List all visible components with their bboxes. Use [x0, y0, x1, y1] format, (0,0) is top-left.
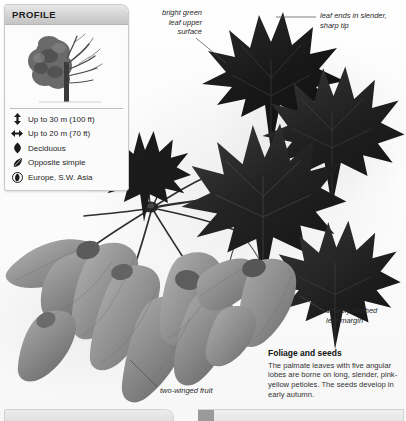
next-section-panel-top-edge [198, 409, 404, 421]
caption-title: Foliage and seeds [268, 348, 400, 358]
leader-line-upper-surface [196, 38, 230, 66]
profile-title: PROFILE [12, 9, 56, 20]
next-section-tab-marker [198, 410, 214, 421]
profile-attribute-list: Up to 30 m (100 ft) Up to 20 m (70 ft) D… [5, 111, 128, 190]
profile-leaf-type-text: Opposite simple [28, 158, 85, 167]
profile-panel: PROFILE [4, 4, 129, 191]
profile-row-height: Up to 30 m (100 ft) [10, 112, 124, 126]
profile-divider [10, 108, 123, 109]
simple-leaf-icon [10, 156, 24, 169]
next-profile-panel-top-edge [4, 409, 174, 421]
profile-region-text: Europe, S.W. Asia [28, 173, 92, 182]
annotation-leaf-margin: sharply toothed leaf margin [326, 306, 404, 325]
profile-spread-text: Up to 20 m (70 ft) [28, 129, 90, 138]
falling-leaf-icon [10, 142, 24, 155]
annotation-leaf-tip-text: leaf ends in slender, sharp tip [320, 11, 387, 30]
leader-line-leaf-margin [300, 296, 328, 314]
caption-block: Foliage and seeds The palmate leaves wit… [268, 348, 400, 400]
profile-tree-thumbnail [9, 28, 124, 104]
spread-arrow-icon [10, 127, 24, 140]
profile-row-deciduous: Deciduous [10, 141, 124, 155]
annotation-two-winged-fruit: two-winged fruit [160, 386, 252, 396]
annotation-two-winged-fruit-text: two-winged fruit [160, 386, 213, 395]
annotation-upper-surface-text: bright green leaf upper surface [162, 8, 202, 36]
annotation-upper-surface: bright green leaf upper surface [130, 8, 202, 37]
profile-row-region: Europe, S.W. Asia [10, 170, 124, 184]
field-guide-plate: PROFILE [0, 0, 406, 421]
profile-height-text: Up to 30 m (100 ft) [28, 115, 95, 124]
profile-deciduous-text: Deciduous [28, 144, 66, 153]
annotation-leaf-margin-text: sharply toothed leaf margin [326, 306, 377, 325]
caption-body: The palmate leaves with five angular lob… [268, 361, 400, 400]
height-arrow-icon [10, 113, 24, 126]
profile-row-leaf-type: Opposite simple [10, 156, 124, 170]
globe-location-icon [10, 171, 24, 184]
leader-line-leaf-tip [276, 16, 318, 22]
profile-row-spread: Up to 20 m (70 ft) [10, 127, 124, 141]
leader-line-two-winged-fruit [130, 360, 160, 390]
profile-header: PROFILE [5, 5, 128, 25]
annotation-leaf-tip: leaf ends in slender, sharp tip [320, 11, 404, 30]
